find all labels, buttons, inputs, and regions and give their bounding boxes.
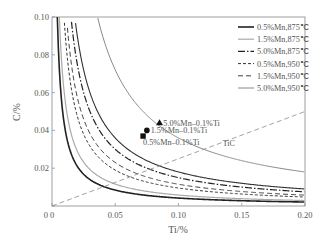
y-axis-label: C/% (11, 103, 22, 121)
x-tick-label-2: 0.10 (171, 210, 186, 220)
y-tick-label-4: 0.08 (34, 50, 49, 60)
y-tick-label-2: 0.04 (34, 125, 50, 135)
x-tick-label-1: 0.05 (108, 210, 123, 220)
legend-label-4: 1.5%Mn,950℃ (257, 72, 309, 81)
series-line-0 (57, 17, 304, 202)
y-tick-label-5: 0.10 (34, 12, 49, 22)
y-tick-label-3: 0.06 (34, 88, 49, 98)
legend-label-5: 5.0%Mn,950℃ (257, 84, 309, 93)
point-label-2: 0.5%Mn–0.1%Ti (143, 138, 200, 147)
chart: TiC 00.050.100.150.2000.020.040.060.080.… (0, 0, 326, 247)
point-marker-0 (156, 119, 163, 125)
y-tick-label-1: 0.02 (34, 163, 49, 173)
legend-label-0: 0.5%Mn,875℃ (257, 23, 309, 32)
y-tick-label-0: 0 (44, 210, 48, 220)
legend-label-3: 0.5%Mn,950℃ (257, 60, 309, 69)
point-label-1: 1.5%Mn–0.1%Ti (151, 126, 208, 135)
legend-label-1: 1.5%Mn,875℃ (257, 35, 309, 44)
x-tick-label-4: 0.20 (298, 210, 313, 220)
x-axis-label: Ti/% (168, 224, 188, 235)
x-tick-label-0: 0 (50, 210, 54, 220)
tic-label: TiC (223, 139, 235, 148)
x-tick-label-3: 0.15 (234, 210, 249, 220)
legend-label-2: 5.0%Mn,875℃ (257, 47, 309, 56)
point-marker-1 (144, 128, 150, 134)
